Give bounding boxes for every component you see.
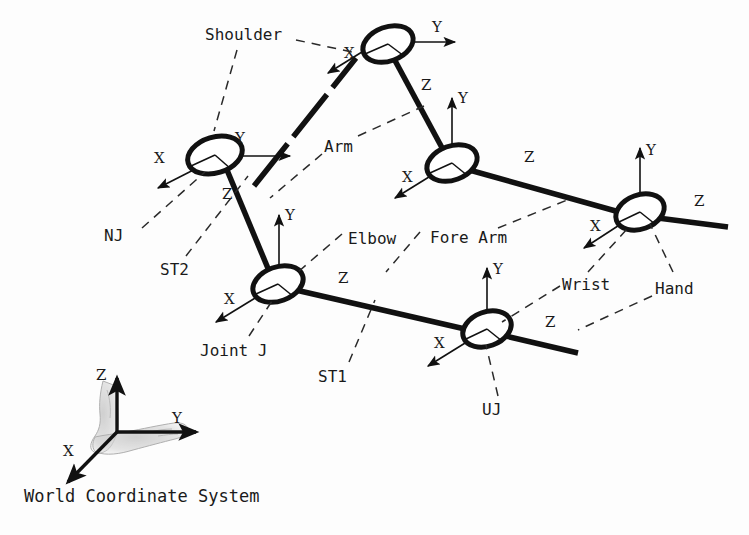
label-hand: Hand [655, 279, 694, 298]
leader-forearm-right [498, 198, 572, 228]
elbowc-label-z: Z [524, 148, 534, 166]
leader-shoulder-left [214, 50, 237, 131]
shoulder-label-z: Z [421, 76, 431, 94]
jointj-label-y: Y [284, 206, 296, 224]
label-joint-j: Joint J [200, 341, 267, 360]
leader-jointj [249, 298, 274, 336]
leader-hand-down [578, 296, 652, 330]
leader-arm-left [270, 154, 322, 198]
label-fore-arm: Fore Arm [430, 228, 507, 247]
wcs-label-x: X [63, 442, 74, 460]
jointj-label-x: X [224, 290, 235, 308]
shoulder-label-y: Y [431, 18, 443, 36]
joint-uj[interactable]: X Y Z [428, 260, 578, 366]
leader-hand [650, 224, 673, 272]
link-forearm [455, 166, 630, 215]
joint-shoulder[interactable]: X Y Z [328, 18, 455, 94]
figure-canvas: X Y Z X Y Z X Y Z X Y Z [0, 0, 749, 535]
kinematic-diagram: X Y Z X Y Z X Y Z X Y Z [0, 0, 749, 535]
label-arm: Arm [324, 137, 353, 156]
label-shoulder: Shoulder [205, 25, 282, 44]
leader-uj [486, 345, 498, 396]
nj-label-x: X [154, 149, 165, 167]
label-uj: UJ [482, 400, 501, 419]
hand-label-x: X [590, 217, 601, 235]
joint-j[interactable]: X Y Z [216, 206, 348, 322]
hand-label-z: Z [694, 192, 704, 210]
link-st1 [287, 288, 478, 332]
world-coordinate-frame[interactable]: Z Y X World Coordinate System [24, 366, 259, 506]
leader-st2 [186, 176, 248, 256]
joint-hand[interactable]: X Y Z [584, 141, 728, 248]
world-coordinate-system-caption: World Coordinate System [24, 486, 259, 506]
wcs-label-z: Z [96, 366, 106, 384]
link-st2-upper [254, 58, 356, 186]
nj-label-z: Z [222, 185, 232, 203]
uj-axis-z-bar [497, 334, 578, 353]
leader-elbow [298, 234, 342, 272]
uj-label-z: Z [545, 313, 555, 331]
leader-arm-right [358, 106, 424, 136]
shoulder-label-x: X [344, 44, 355, 62]
label-wrist: Wrist [562, 275, 610, 294]
link-neck-to-jointj [227, 170, 272, 278]
elbowc-label-y: Y [457, 89, 469, 107]
hand-label-y: Y [645, 141, 657, 159]
uj-label-x: X [434, 334, 445, 352]
nj-label-y: Y [234, 129, 246, 147]
label-st2: ST2 [160, 260, 189, 279]
label-st1: ST1 [318, 367, 347, 386]
label-nj: NJ [104, 226, 123, 245]
jointj-label-z: Z [338, 269, 348, 287]
elbowc-label-x: X [402, 168, 413, 186]
jointj-axis-x [216, 295, 260, 322]
callout-labels: Shoulder Arm NJ ST2 Elbow Fore Arm Wrist… [104, 25, 694, 419]
wcs-label-y: Y [171, 409, 183, 427]
link-arm [392, 55, 447, 157]
label-elbow: Elbow [348, 229, 397, 248]
uj-label-y: Y [492, 260, 504, 278]
